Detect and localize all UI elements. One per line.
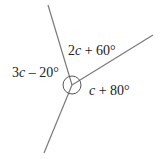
label-bottom-right: c + 80° (89, 83, 130, 98)
label-left: 3c – 20° (12, 65, 59, 80)
angle-diagram: 2c + 60° 3c – 20° c + 80° (0, 0, 160, 159)
ray-bottom (44, 85, 72, 153)
label-top-right: 2c + 60° (68, 43, 116, 58)
